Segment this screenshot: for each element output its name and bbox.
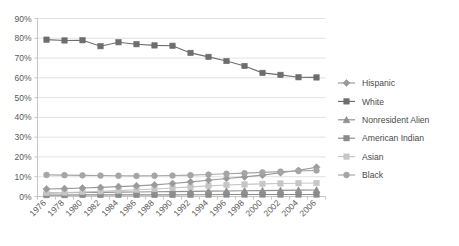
y-axis-tick-label: 20% (14, 152, 31, 162)
legend-item-black[interactable]: Black (338, 170, 384, 180)
x-axis-tick-label: 1992 (171, 198, 192, 219)
data-point-marker (98, 43, 103, 48)
data-point-marker (344, 136, 349, 141)
legend-item-asian[interactable]: Asian (338, 152, 384, 162)
series-line (47, 40, 317, 78)
x-axis-tick-label: 1978 (45, 198, 66, 219)
y-axis-tick-label: 80% (14, 33, 31, 43)
legend-item-label: Nonresident Alien (362, 115, 430, 125)
data-point-marker (344, 172, 350, 178)
series-black (44, 167, 320, 178)
data-point-marker (206, 54, 211, 59)
data-point-marker (314, 167, 320, 173)
data-point-marker (116, 173, 122, 179)
data-point-marker (278, 72, 283, 77)
y-axis-tick-label: 90% (14, 14, 31, 24)
data-point-marker (98, 173, 104, 179)
data-point-marker (188, 50, 193, 55)
data-point-marker (242, 182, 247, 187)
data-point-marker (152, 43, 157, 48)
data-point-marker (296, 168, 302, 174)
data-point-marker (278, 181, 283, 186)
legend-item-american-indian[interactable]: American Indian (338, 133, 424, 143)
data-point-marker (206, 172, 212, 178)
data-point-marker (62, 38, 67, 43)
y-axis-tick-label: 10% (14, 172, 31, 182)
legend-item-nonresident-alien[interactable]: Nonresident Alien (338, 115, 430, 125)
x-axis-tick-label: 1980 (63, 198, 84, 219)
data-point-marker (344, 99, 349, 104)
y-axis-tick-label: 70% (14, 53, 31, 63)
x-axis-tick-label: 1990 (153, 198, 174, 219)
y-axis-tick-label: 50% (14, 93, 31, 103)
x-axis-tick-label: 1986 (117, 198, 138, 219)
legend-item-label: Black (362, 170, 384, 180)
data-point-marker (296, 75, 301, 80)
data-point-marker (152, 173, 158, 179)
data-point-marker (116, 40, 121, 45)
chart-legend: HispanicWhiteNonresident AlienAmerican I… (338, 78, 430, 180)
data-point-marker (170, 173, 176, 179)
x-axis-tick-label: 2006 (297, 198, 318, 219)
line-chart: 0%10%20%30%40%50%60%70%80%90% 1976197819… (0, 0, 459, 246)
legend-item-label: Hispanic (362, 78, 396, 88)
data-point-marker (260, 70, 265, 75)
y-axis-tick-label: 30% (14, 132, 31, 142)
x-axis-tick-label: 2004 (279, 198, 300, 219)
x-axis-tick-label: 2000 (243, 198, 264, 219)
data-point-marker (314, 75, 319, 80)
data-point-marker (80, 172, 86, 178)
data-point-marker (80, 38, 85, 43)
x-axis-tick-label: 2002 (261, 198, 282, 219)
data-point-marker (278, 169, 284, 175)
data-point-marker (224, 182, 229, 187)
x-axis-tick-label: 1998 (225, 198, 246, 219)
legend-item-label: Asian (362, 152, 384, 162)
series-line (47, 195, 317, 196)
data-point-marker (242, 170, 248, 176)
data-point-marker (296, 181, 301, 186)
y-axis-tick-label: 0% (19, 192, 32, 202)
legend-item-label: White (362, 97, 384, 107)
data-point-marker (343, 80, 350, 87)
data-point-marker (224, 58, 229, 63)
legend-item-white[interactable]: White (338, 97, 384, 107)
y-axis-tick-labels: 0%10%20%30%40%50%60%70%80%90% (14, 14, 31, 202)
data-point-marker (188, 172, 194, 178)
data-point-marker (205, 177, 212, 184)
data-point-marker (134, 42, 139, 47)
data-point-marker (134, 173, 140, 179)
x-axis-tick-label: 1984 (99, 198, 120, 219)
data-point-marker (44, 37, 49, 42)
y-axis-tick-label: 40% (14, 112, 31, 122)
data-point-marker (260, 181, 265, 186)
x-axis-tick-label: 1982 (81, 198, 102, 219)
data-point-marker (224, 171, 230, 177)
x-axis-tick-label: 1996 (207, 198, 228, 219)
legend-item-hispanic[interactable]: Hispanic (338, 78, 396, 88)
data-point-marker (170, 43, 175, 48)
chart-canvas: 0%10%20%30%40%50%60%70%80%90% 1976197819… (0, 0, 459, 246)
data-point-marker (242, 63, 247, 68)
x-axis-tick-label: 1988 (135, 198, 156, 219)
data-point-marker (62, 172, 68, 178)
data-point-marker (344, 154, 349, 159)
x-axis-tick-label: 1994 (189, 198, 210, 219)
data-point-marker (44, 172, 50, 178)
data-point-marker (314, 180, 319, 185)
data-point-marker (260, 169, 266, 175)
legend-item-label: American Indian (362, 133, 424, 143)
series-white (44, 37, 319, 80)
y-axis-tick-label: 60% (14, 73, 31, 83)
x-axis-tick-labels: 1976197819801982198419861988199019921994… (27, 198, 318, 219)
series-line (47, 167, 317, 189)
series-hispanic (43, 164, 320, 193)
